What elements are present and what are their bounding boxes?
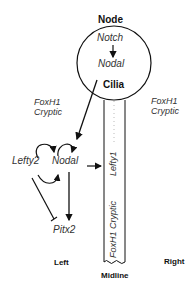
node-title: Node <box>98 15 123 25</box>
lefty2-nodal-arc <box>38 175 58 183</box>
left-label: Left <box>54 258 69 268</box>
midline-label: Midline <box>101 271 129 281</box>
diagram-graphics <box>0 0 194 290</box>
midline-factors-label: FoxH1 Cryptic <box>108 201 118 258</box>
lefty1-label: Lefty1 <box>108 151 118 176</box>
lefty2-inhibits-pitx2 <box>32 178 54 219</box>
node-nodal-label: Nodal <box>98 59 124 69</box>
pitx2-label: Pitx2 <box>53 225 75 235</box>
right-label: Right <box>164 257 184 267</box>
right-foxh1-label: FoxH1 <box>151 96 178 106</box>
left-nodal-label: Nodal <box>52 156 78 166</box>
lefty2-label: Lefty2 <box>12 156 39 166</box>
left-cryptic-label: Cryptic <box>34 107 62 117</box>
notch-label: Notch <box>97 33 123 43</box>
cilia-label: Cilia <box>103 80 124 90</box>
right-cryptic-label: Cryptic <box>151 106 179 116</box>
midline-wavy-end <box>104 261 125 264</box>
left-foxh1-label: FoxH1 <box>34 97 61 107</box>
